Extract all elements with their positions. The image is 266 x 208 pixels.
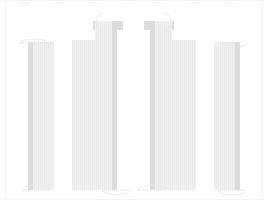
annotation-arcs-group [20,13,248,195]
columns-group [28,21,240,190]
column-right-outer-bottom-arc [218,190,246,195]
column-right-inner-tall-flange [150,21,155,190]
column-right-inner-wide-body [168,40,196,190]
dimension-label: 2 [126,1,129,7]
dimension-label: 900 [152,1,161,7]
elevation-svg [0,0,266,208]
column-left-inner-tall-flange [112,21,117,190]
column-left-inner-tall [93,21,123,190]
column-left-outer [28,42,54,190]
dimension-label: 1800 [188,1,200,7]
dimension-label: 2400 [18,1,30,7]
column-right-outer-flange [235,42,240,190]
dimension-label: 2400 [224,1,236,7]
column-right-outer [214,42,240,190]
dimension-label: 900 [88,1,97,7]
drawing-canvas: 24001800900290018002400 [0,0,266,208]
column-left-inner-tall-bottom-arc [102,190,130,195]
column-right-inner-wide [168,40,196,190]
dimension-label: 1800 [52,1,64,7]
column-left-outer-flange [28,42,33,190]
